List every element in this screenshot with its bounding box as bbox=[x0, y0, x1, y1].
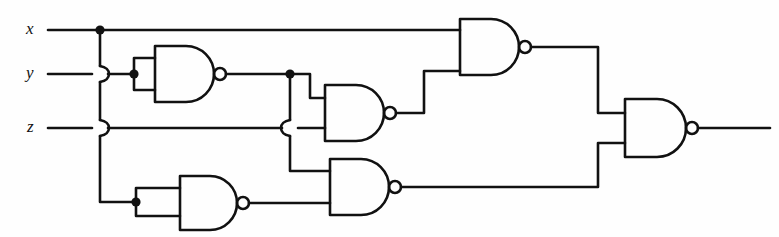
circuit-diagram-canvas: x y z bbox=[0, 0, 779, 237]
wire-g1-to-gate2 bbox=[290, 74, 325, 98]
logic-circuit-svg bbox=[0, 0, 779, 237]
wire-g2-output bbox=[396, 71, 460, 113]
junction-dot-x-gate4 bbox=[131, 197, 140, 206]
gate-g5-bubble bbox=[389, 181, 401, 193]
wire-x-g4-split-top bbox=[136, 188, 180, 202]
wire-x-bus-seg3 bbox=[100, 136, 136, 202]
junction-dot-x-bus bbox=[95, 25, 104, 34]
gate-g2-body bbox=[325, 85, 384, 141]
junction-dot-y-gate1 bbox=[129, 69, 138, 78]
wire-g3-output bbox=[531, 47, 625, 113]
gate-g4-bubble bbox=[237, 197, 249, 209]
wire-g5-output bbox=[401, 143, 625, 187]
gate-g3-body bbox=[460, 19, 519, 75]
gate-g6-body bbox=[625, 99, 686, 157]
gate-g1-bubble bbox=[214, 68, 226, 80]
gate-g2-bubble bbox=[384, 107, 396, 119]
gate-g5-body bbox=[330, 159, 389, 215]
gate-g3-bubble bbox=[519, 41, 531, 53]
gate-g1-body bbox=[155, 46, 214, 102]
gate-g6-bubble bbox=[686, 122, 698, 134]
gate-g4-body bbox=[180, 176, 237, 230]
wire-x-g4-split-bottom bbox=[136, 202, 180, 216]
junction-dot-g1-output bbox=[285, 69, 294, 78]
